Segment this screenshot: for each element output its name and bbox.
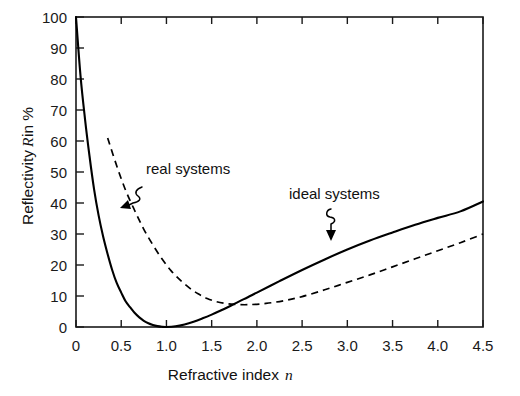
annotation-arrow-ideal-systems: [327, 209, 335, 233]
x-tick-label: 1.0: [156, 337, 177, 354]
y-axis-title: Reflectivity R in %: [19, 107, 36, 225]
y-tick-label: 30: [50, 226, 67, 243]
reflectivity-chart-figure: 00.51.01.52.02.53.03.54.04.5 01020304050…: [0, 0, 520, 396]
svg-text:n: n: [285, 366, 293, 383]
x-tick-label: 3.5: [382, 337, 403, 354]
svg-text:Reflectivity: Reflectivity: [19, 150, 36, 225]
y-tick-label: 40: [50, 195, 67, 212]
y-tick-label: 50: [50, 164, 67, 181]
x-tick-label: 4.5: [473, 337, 494, 354]
x-tick-label: 2.0: [246, 337, 267, 354]
x-tick-label: 2.5: [292, 337, 313, 354]
chart-canvas: 00.51.01.52.02.53.03.54.04.5 01020304050…: [0, 0, 520, 396]
x-axis-tick-labels: 00.51.01.52.02.53.03.54.04.5: [72, 337, 494, 354]
y-tick-label: 20: [50, 257, 67, 274]
x-tick-label: 0: [72, 337, 80, 354]
x-tick-label: 4.0: [427, 337, 448, 354]
series-line-ideal-systems: [76, 17, 483, 327]
y-tick-label: 100: [42, 9, 67, 26]
annotation-arrowhead-real-systems: [120, 200, 131, 209]
y-tick-label: 90: [50, 40, 67, 57]
annotation-arrow-real-systems: [127, 187, 142, 206]
y-tick-label: 10: [50, 288, 67, 305]
y-tick-label: 0: [59, 319, 67, 336]
annotation-ideal-systems: ideal systems: [289, 185, 380, 202]
x-tick-label: 1.5: [201, 337, 222, 354]
svg-text:in %: in %: [19, 107, 36, 137]
x-axis-title: Refractive index n: [168, 366, 293, 383]
y-tick-label: 70: [50, 102, 67, 119]
svg-text:R: R: [19, 137, 36, 148]
y-tick-label: 60: [50, 133, 67, 150]
y-tick-label: 80: [50, 71, 67, 88]
annotation-real-systems: real systems: [146, 160, 230, 177]
svg-text:Refractive index: Refractive index: [168, 366, 279, 383]
x-tick-label: 0.5: [111, 337, 132, 354]
y-axis-tick-labels: 0102030405060708090100: [42, 9, 67, 336]
x-tick-label: 3.0: [337, 337, 358, 354]
annotation-arrowhead-ideal-systems: [326, 230, 336, 241]
